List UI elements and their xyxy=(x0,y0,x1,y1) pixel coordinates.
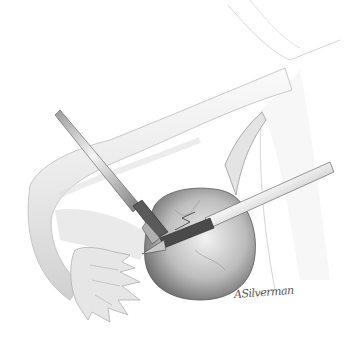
fimbriae xyxy=(71,247,140,322)
ovarian-ligament xyxy=(225,112,266,195)
surgical-drawing xyxy=(0,0,347,345)
medical-illustration: ASilverman xyxy=(0,0,347,345)
